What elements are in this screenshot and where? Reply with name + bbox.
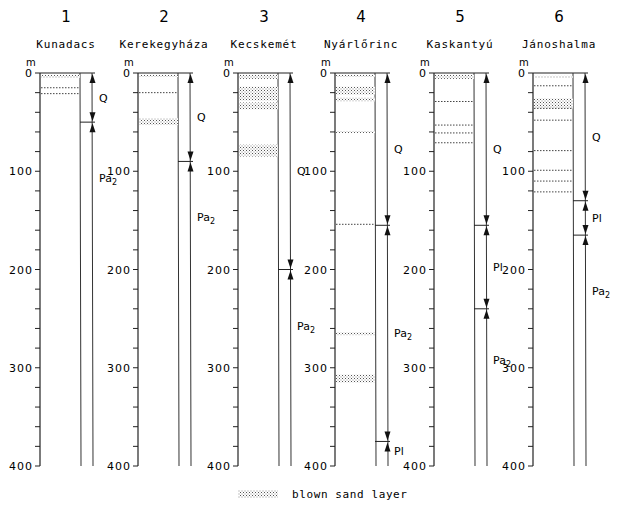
blown-sand-layer: [239, 102, 278, 109]
unit-label-pa2: Pa2: [197, 211, 215, 226]
unit-label-pl: Pl: [592, 212, 602, 225]
arrow-up-icon: [90, 123, 96, 132]
blown-sand-layer: [336, 87, 375, 95]
borehole-column-5: 5Kaskantyúm0100200300400QPlPa2: [403, 8, 511, 473]
arrow-up-icon: [583, 236, 589, 245]
depth-tick-label: 0: [223, 67, 231, 80]
unit-label-pa2: Pa2: [297, 320, 315, 335]
arrow-up-icon: [288, 74, 294, 83]
arrow-up-icon: [583, 202, 589, 211]
arrow-down-icon: [288, 260, 294, 269]
depth-tick-label: 100: [403, 165, 427, 178]
depth-tick-label: 100: [502, 165, 526, 178]
blown-sand-layer: [336, 75, 375, 77]
depth-tick-label: 300: [9, 362, 33, 375]
blown-sand-layer: [239, 87, 278, 101]
legend: blown sand layer: [238, 488, 408, 501]
column-name: Kerekegyháza: [119, 38, 208, 51]
blown-sand-layer: [534, 99, 573, 109]
borehole-column-3: 3Kecskemétm0100200300400QPa2: [207, 8, 315, 473]
depth-tick-label: 100: [304, 165, 328, 178]
depth-tick-label: 200: [9, 264, 33, 277]
depth-tick-label: 200: [207, 264, 231, 277]
arrow-up-icon: [188, 74, 194, 83]
arrow-down-icon: [385, 215, 391, 224]
arrow-down-icon: [90, 112, 96, 121]
depth-tick-label: 100: [207, 165, 231, 178]
column-name: Kunadacs: [36, 38, 95, 51]
blown-sand-layer: [336, 131, 375, 133]
arrow-up-icon: [484, 74, 490, 83]
depth-tick-label: 300: [207, 362, 231, 375]
depth-tick-label: 0: [419, 67, 427, 80]
arrow-up-icon: [484, 226, 490, 235]
legend-swatch-icon: [238, 490, 278, 498]
arrow-down-icon: [385, 431, 391, 440]
column-name: Nyárlőrinc: [324, 38, 398, 51]
column-number: 6: [554, 8, 564, 26]
depth-tick-label: 300: [403, 362, 427, 375]
borehole-column-4: 4Nyárlőrincm0100200300400QPa2Pl: [304, 8, 412, 473]
blown-sand-layer: [336, 332, 375, 335]
column-name: Jánoshalma: [522, 38, 596, 51]
depth-tick-label: 0: [518, 67, 526, 80]
depth-tick-label: 400: [502, 460, 526, 473]
blown-sand-layer: [239, 145, 278, 157]
arrow-down-icon: [188, 151, 194, 160]
blown-sand-layer: [139, 75, 178, 77]
column-name: Kaskantyú: [427, 38, 494, 51]
arrow-up-icon: [90, 74, 96, 83]
unit-label-pa2: Pa2: [394, 327, 412, 342]
unit-label-q: Q: [99, 92, 108, 105]
borehole-diagram: 1Kunadacsm0100200300400QPa22Kerekegyháza…: [0, 0, 628, 509]
blown-sand-layer: [435, 75, 474, 79]
depth-tick-label: 200: [107, 264, 131, 277]
depth-tick-label: 0: [123, 67, 131, 80]
column-number: 5: [455, 8, 465, 26]
unit-label-q: Q: [394, 143, 403, 156]
borehole-column-6: 6Jánoshalmam0100200300400QPlPa2: [502, 8, 610, 473]
depth-tick-label: 200: [403, 264, 427, 277]
column-name: Kecskemét: [231, 38, 298, 51]
arrow-up-icon: [385, 74, 391, 83]
blown-sand-layer: [41, 75, 80, 78]
depth-tick-label: 400: [107, 460, 131, 473]
depth-tick-label: 300: [107, 362, 131, 375]
blown-sand-layer: [139, 118, 178, 125]
borehole-column-2: 2Kerekegyházam0100200300400QPa2: [107, 8, 215, 473]
depth-tick-label: 400: [207, 460, 231, 473]
column-number: 3: [259, 8, 269, 26]
legend-label: blown sand layer: [292, 488, 408, 501]
arrow-down-icon: [484, 299, 490, 308]
arrow-up-icon: [385, 442, 391, 451]
arrow-up-icon: [484, 310, 490, 319]
depth-tick-label: 0: [25, 67, 33, 80]
depth-tick-label: 200: [502, 264, 526, 277]
columns-layer: 1Kunadacsm0100200300400QPa22Kerekegyháza…: [9, 8, 610, 473]
borehole-column-1: 1Kunadacsm0100200300400QPa2: [9, 8, 117, 473]
blown-sand-layer: [239, 75, 278, 79]
depth-tick-label: 400: [304, 460, 328, 473]
depth-tick-label: 400: [9, 460, 33, 473]
arrow-down-icon: [583, 191, 589, 200]
depth-tick-label: 400: [403, 460, 427, 473]
column-number: 1: [61, 8, 71, 26]
depth-tick-label: 100: [9, 165, 33, 178]
arrow-up-icon: [583, 74, 589, 83]
depth-tick-label: 200: [304, 264, 328, 277]
unit-label-pa2: Pa2: [592, 285, 610, 300]
unit-label-q: Q: [197, 111, 206, 124]
unit-label-pl: Pl: [394, 445, 404, 458]
unit-label-q: Q: [493, 143, 502, 156]
depth-tick-label: 100: [107, 165, 131, 178]
depth-tick-label: 0: [320, 67, 328, 80]
arrow-up-icon: [188, 162, 194, 171]
depth-tick-label: 300: [304, 362, 328, 375]
blown-sand-layer: [336, 98, 375, 102]
blown-sand-layer: [534, 76, 573, 78]
arrow-up-icon: [288, 271, 294, 280]
arrow-up-icon: [385, 226, 391, 235]
arrow-down-icon: [583, 225, 589, 234]
blown-sand-layer: [336, 375, 375, 383]
arrow-down-icon: [484, 215, 490, 224]
